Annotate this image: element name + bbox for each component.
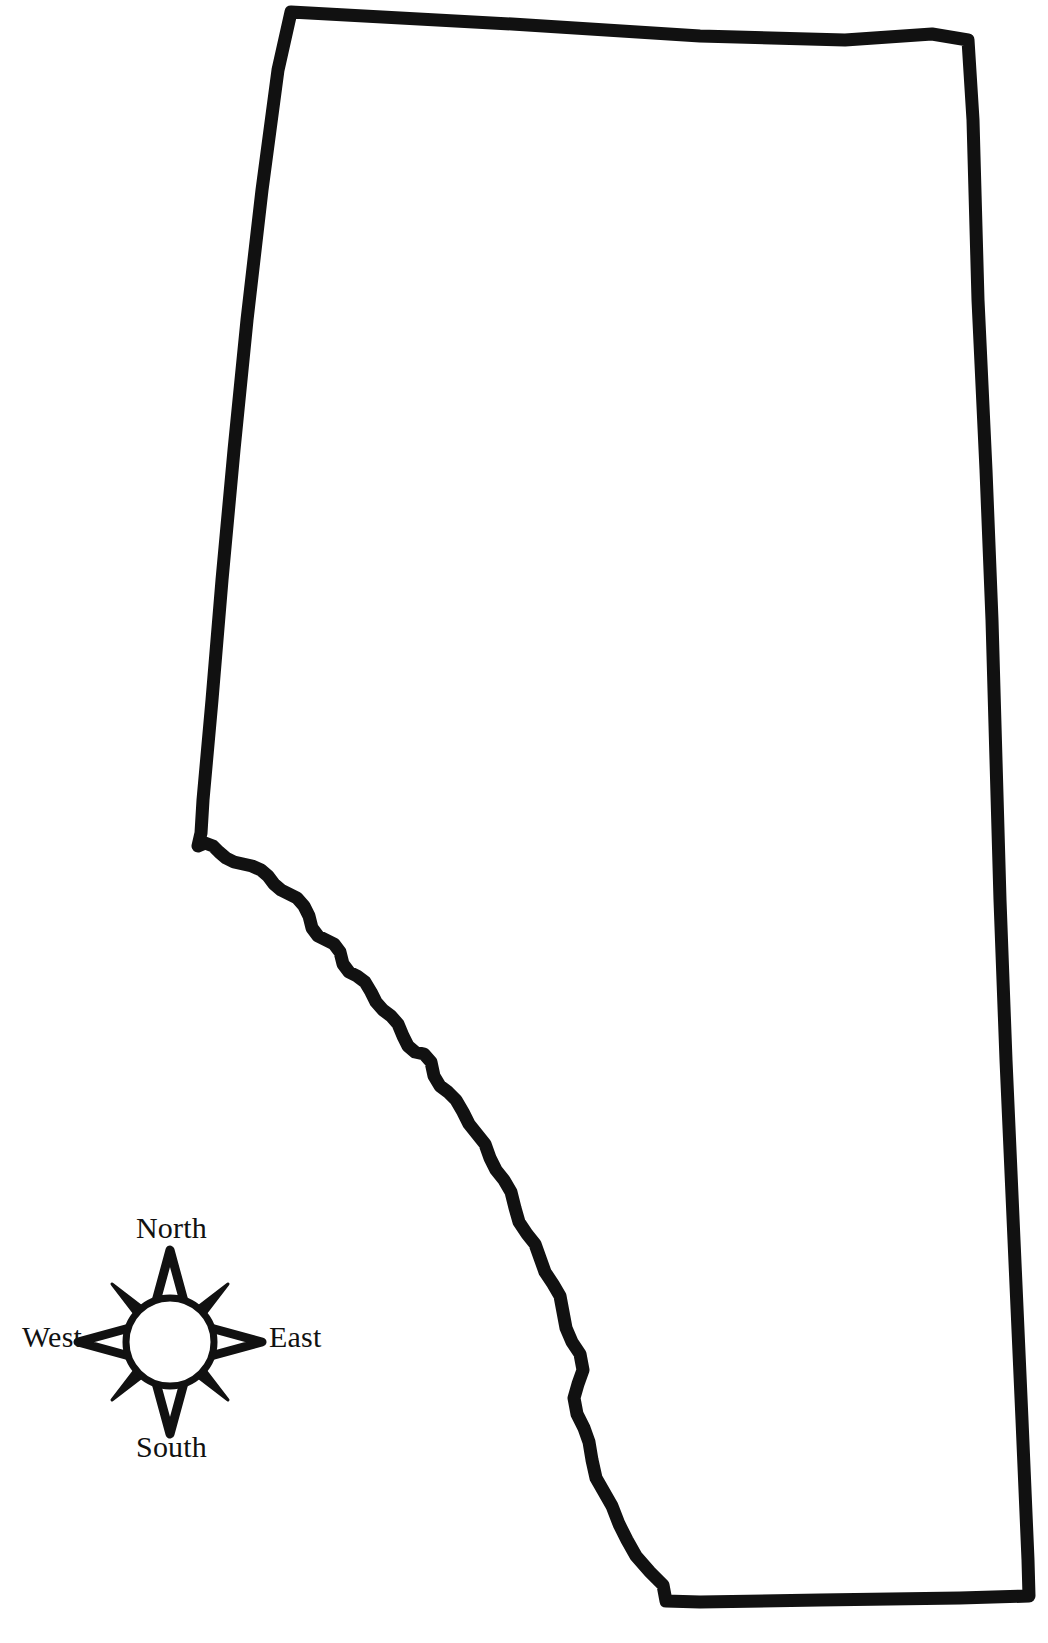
alberta-outline	[198, 12, 1029, 1602]
compass-label-south: South	[136, 1432, 207, 1462]
page-canvas: North South West East	[0, 0, 1048, 1643]
compass-rose	[78, 1250, 262, 1434]
compass-label-east: East	[269, 1322, 321, 1352]
compass-label-west: West	[22, 1322, 82, 1352]
figure-svg	[0, 0, 1048, 1643]
compass-center-circle	[126, 1298, 214, 1386]
alberta-boundary-path	[198, 12, 1029, 1602]
compass-label-north: North	[136, 1213, 207, 1243]
